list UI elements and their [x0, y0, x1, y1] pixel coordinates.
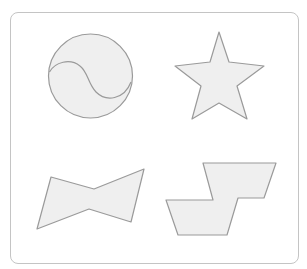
bow-tie-shape[interactable] — [37, 169, 144, 229]
star-shape[interactable] — [175, 32, 264, 119]
step-shape[interactable] — [166, 163, 276, 235]
shapes-canvas — [0, 0, 307, 269]
yin-yang-circle-shape[interactable] — [49, 34, 133, 118]
